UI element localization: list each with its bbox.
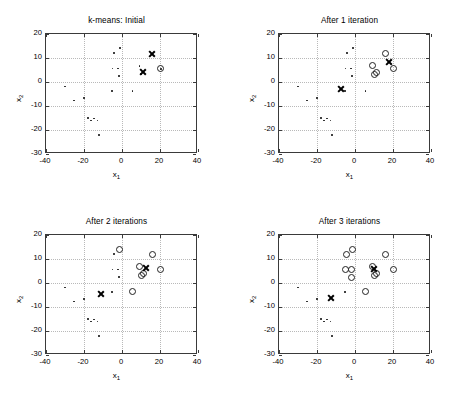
x-tick-label: 0 — [339, 357, 369, 366]
y-axis-label-text: x — [14, 299, 23, 303]
cluster-assignment-circle — [349, 246, 356, 253]
data-point — [64, 287, 66, 289]
y-tick-label: -30 — [16, 148, 42, 157]
data-point — [320, 117, 322, 119]
tick-x — [84, 350, 85, 353]
tick-x — [317, 149, 318, 152]
tick-y — [46, 307, 49, 308]
tick-y-right — [193, 331, 196, 332]
y-tick-label: 10 — [16, 52, 42, 61]
tick-x-top — [84, 34, 85, 37]
tick-x-top — [198, 34, 199, 37]
centroid-x-marker — [327, 294, 335, 302]
gridline-horizontal — [46, 283, 196, 284]
tick-x-top — [355, 34, 356, 37]
centroid-x-marker — [385, 58, 393, 66]
x-axis-label-subscript: 1 — [117, 174, 120, 180]
y-tick-label: -20 — [249, 325, 275, 334]
cluster-assignment-circle — [390, 266, 397, 273]
y-tick-label: 20 — [16, 28, 42, 37]
gridline-horizontal — [279, 331, 429, 332]
gridline-horizontal — [46, 58, 196, 59]
y-tick-label: 20 — [249, 229, 275, 238]
tick-y-right — [193, 106, 196, 107]
tick-x — [160, 149, 161, 152]
data-point — [350, 68, 352, 70]
cluster-assignment-circle — [362, 288, 369, 295]
data-point — [64, 86, 66, 88]
tick-y-right — [426, 355, 429, 356]
panel-title: After 1 iteration — [233, 16, 466, 25]
tick-y-right — [193, 307, 196, 308]
y-axis-label: x2 — [14, 296, 24, 303]
tick-y-right — [426, 307, 429, 308]
y-axis-label: x2 — [14, 95, 24, 102]
y-axis-label-text: x — [247, 98, 256, 102]
centroid-x-marker — [139, 68, 147, 76]
y-tick-label: -20 — [16, 124, 42, 133]
data-point — [98, 335, 100, 337]
y-axis-label-subscript: 2 — [18, 296, 24, 299]
x-axis-label: x1 — [233, 170, 466, 180]
tick-x — [198, 149, 199, 152]
cluster-assignment-circle — [157, 266, 164, 273]
x-tick-label: -20 — [301, 156, 331, 165]
cluster-assignment-circle — [382, 251, 389, 258]
y-axis-label: x2 — [247, 296, 257, 303]
data-point — [117, 269, 119, 271]
x-tick-label: 40 — [415, 357, 445, 366]
data-point — [98, 134, 100, 136]
tick-y — [46, 58, 49, 59]
tick-x-top — [317, 235, 318, 238]
tick-y — [279, 235, 282, 236]
data-point — [111, 90, 113, 92]
tick-y-right — [426, 82, 429, 83]
plot-area — [45, 33, 197, 153]
x-axis-label: x1 — [0, 170, 233, 180]
panel-title: k-means: Initial — [0, 16, 233, 25]
tick-y-right — [426, 106, 429, 107]
kmeans-figure: k-means: Initial-40-200204020100-10-20-3… — [0, 0, 467, 402]
y-tick-label: -30 — [249, 148, 275, 157]
tick-x — [393, 350, 394, 353]
tick-x — [46, 149, 47, 152]
data-point — [323, 321, 325, 323]
cluster-assignment-circle — [116, 246, 123, 253]
x-tick-label: 0 — [106, 156, 136, 165]
data-point — [90, 120, 92, 122]
data-point — [117, 68, 119, 70]
tick-x — [355, 149, 356, 152]
gridline-vertical — [317, 235, 318, 353]
gridline-vertical — [160, 34, 161, 152]
tick-x-top — [198, 235, 199, 238]
tick-y — [46, 106, 49, 107]
tick-y — [279, 82, 282, 83]
y-axis-label-subscript: 2 — [251, 296, 257, 299]
tick-y-right — [426, 331, 429, 332]
panel-3: After 3 iterations-40-200204020100-10-20… — [233, 201, 466, 402]
data-point — [306, 100, 308, 102]
tick-x-top — [393, 34, 394, 37]
x-tick-label: -20 — [68, 357, 98, 366]
x-tick-label: 20 — [144, 156, 174, 165]
tick-y — [279, 331, 282, 332]
tick-y — [46, 283, 49, 284]
data-point — [90, 321, 92, 323]
x-tick-label: 20 — [377, 357, 407, 366]
tick-y-right — [426, 154, 429, 155]
gridline-horizontal — [279, 82, 429, 83]
y-tick-label: 10 — [249, 253, 275, 262]
cluster-assignment-circle — [390, 65, 397, 72]
gridline-horizontal — [46, 331, 196, 332]
data-point — [113, 253, 115, 255]
tick-y — [279, 307, 282, 308]
x-tick-label: -40 — [263, 357, 293, 366]
y-tick-label: 0 — [16, 277, 42, 286]
tick-y-right — [193, 58, 196, 59]
data-point — [297, 287, 299, 289]
panel-0: k-means: Initial-40-200204020100-10-20-3… — [0, 0, 233, 201]
data-point — [97, 321, 99, 323]
x-tick-label: -40 — [263, 156, 293, 165]
gridline-vertical — [393, 34, 394, 152]
cluster-assignment-circle — [149, 251, 156, 258]
